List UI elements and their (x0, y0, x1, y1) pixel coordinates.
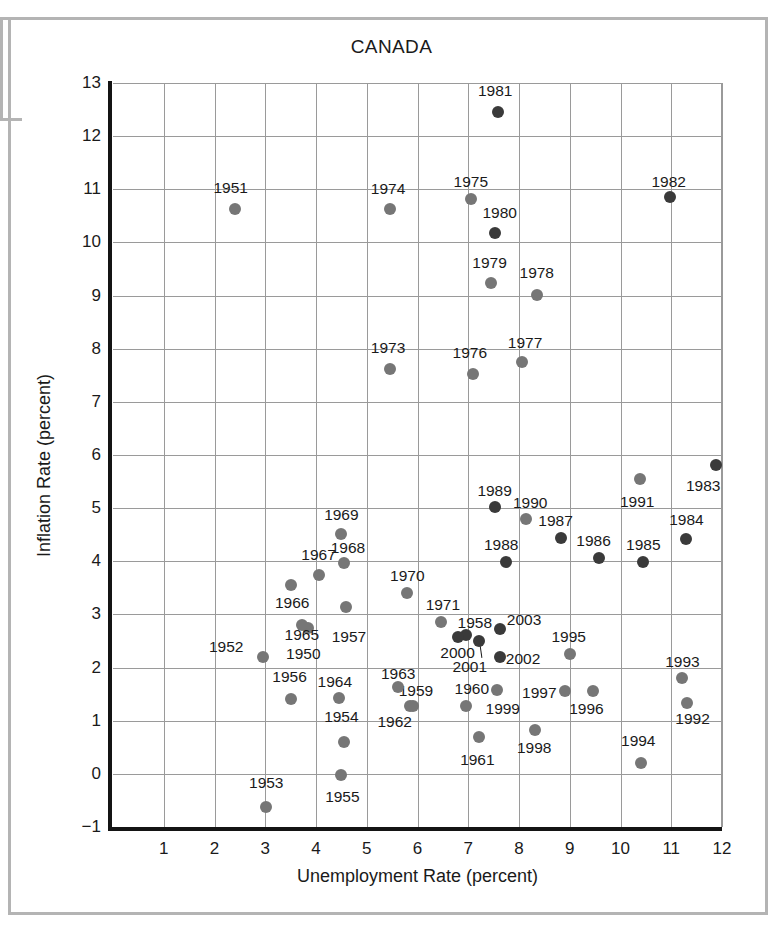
data-point[interactable] (681, 697, 693, 709)
data-point[interactable] (564, 648, 576, 660)
data-point[interactable] (229, 203, 241, 215)
data-point-label: 1996 (569, 700, 603, 718)
data-point[interactable] (491, 684, 503, 696)
data-point[interactable] (593, 552, 605, 564)
gridline-horizontal (113, 721, 722, 722)
gridline-horizontal (113, 668, 722, 669)
data-point-label: 1995 (551, 628, 585, 646)
y-tick-label: 8 (55, 339, 101, 359)
data-point-label: 1952 (209, 638, 243, 656)
data-point[interactable] (260, 801, 272, 813)
data-point-label: 1958 (458, 614, 492, 632)
data-point[interactable] (384, 203, 396, 215)
data-point[interactable] (492, 106, 504, 118)
gridline-horizontal (113, 242, 722, 243)
data-point[interactable] (520, 513, 532, 525)
data-point[interactable] (531, 289, 543, 301)
gridline-horizontal (113, 561, 722, 562)
chart-title: CANADA (0, 36, 783, 58)
data-point[interactable] (340, 601, 352, 613)
data-point[interactable] (529, 724, 541, 736)
data-point[interactable] (555, 532, 567, 544)
data-point-label: 1961 (460, 751, 494, 769)
data-point[interactable] (710, 459, 722, 471)
y-tick-label: 7 (55, 392, 101, 412)
data-point[interactable] (313, 569, 325, 581)
y-axis-line (108, 81, 112, 829)
data-point[interactable] (335, 769, 347, 781)
gridline-horizontal (113, 349, 722, 350)
gridline-horizontal (113, 774, 722, 775)
y-tick-label: 1 (55, 711, 101, 731)
data-point[interactable] (489, 227, 501, 239)
x-tick-label: 2 (195, 839, 235, 859)
data-point-label: 1990 (513, 494, 547, 512)
data-point[interactable] (473, 731, 485, 743)
data-point[interactable] (333, 692, 345, 704)
data-point-label: 2001 (453, 658, 487, 676)
data-point[interactable] (465, 193, 477, 205)
x-tick-label: 5 (347, 839, 387, 859)
data-point[interactable] (407, 700, 419, 712)
data-point[interactable] (664, 191, 676, 203)
plot-area: 1950195119521953195419551956195719581959… (113, 83, 722, 827)
data-point[interactable] (516, 356, 528, 368)
data-point[interactable] (559, 685, 571, 697)
data-point[interactable] (285, 579, 297, 591)
data-point-label: 1989 (477, 482, 511, 500)
y-tick-label: 10 (55, 232, 101, 252)
data-point[interactable] (494, 623, 506, 635)
gridline-horizontal (113, 614, 722, 615)
data-point[interactable] (338, 557, 350, 569)
data-point[interactable] (485, 277, 497, 289)
data-point-label: 2002 (506, 650, 540, 668)
data-point[interactable] (285, 693, 297, 705)
data-point[interactable] (680, 533, 692, 545)
data-point[interactable] (401, 587, 413, 599)
data-point-label: 1991 (620, 493, 654, 511)
data-point-label: 1970 (390, 567, 424, 585)
y-axis-title: Inflation Rate (percent) (34, 326, 55, 606)
data-point[interactable] (452, 631, 464, 643)
x-tick-label: 8 (499, 839, 539, 859)
data-point-label: 1971 (426, 596, 460, 614)
data-point[interactable] (637, 556, 649, 568)
data-point[interactable] (435, 616, 447, 628)
data-point[interactable] (257, 651, 269, 663)
data-point[interactable] (634, 473, 646, 485)
y-tick-label: 11 (55, 179, 101, 199)
x-tick-label: 6 (398, 839, 438, 859)
data-point-label: 1960 (455, 680, 489, 698)
data-point[interactable] (635, 757, 647, 769)
data-point-label: 1953 (249, 774, 283, 792)
data-point[interactable] (676, 672, 688, 684)
data-point-label: 1978 (520, 264, 554, 282)
data-point-label: 1950 (286, 645, 320, 663)
data-point[interactable] (473, 635, 485, 647)
plot-right-edge (721, 83, 722, 827)
data-point[interactable] (500, 556, 512, 568)
data-point[interactable] (384, 363, 396, 375)
gridline-horizontal (113, 189, 722, 190)
data-point[interactable] (392, 681, 404, 693)
data-point-label: 1975 (454, 173, 488, 191)
data-point-label: 1993 (665, 653, 699, 671)
data-point-label: 1983 (686, 477, 720, 495)
data-point-label: 1964 (318, 673, 352, 691)
data-point[interactable] (587, 685, 599, 697)
y-tick-label: 12 (55, 126, 101, 146)
gridline-horizontal (113, 455, 722, 456)
y-tick-label: 5 (55, 498, 101, 518)
data-point[interactable] (494, 651, 506, 663)
data-point[interactable] (460, 700, 472, 712)
x-axis-title: Unemployment Rate (percent) (113, 866, 722, 887)
y-tick-label: 13 (55, 73, 101, 93)
data-point-label: 1963 (381, 665, 415, 683)
data-point[interactable] (335, 528, 347, 540)
data-point[interactable] (338, 736, 350, 748)
data-point[interactable] (489, 501, 501, 513)
data-point[interactable] (467, 368, 479, 380)
data-point-label: 1979 (472, 254, 506, 272)
y-tick-label: −1 (55, 817, 101, 837)
data-point-label: 1997 (522, 684, 556, 702)
